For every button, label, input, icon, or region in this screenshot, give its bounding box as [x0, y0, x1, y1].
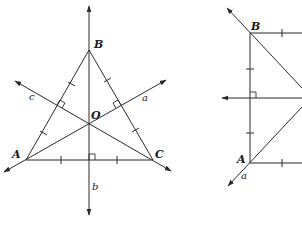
label-line-a: a: [241, 170, 247, 181]
label-b-vertex: B: [93, 38, 103, 51]
label-line-c: c: [29, 91, 35, 102]
label-line-a: a: [142, 92, 148, 103]
right-angle-mark: [250, 92, 256, 98]
right-angle-mark: [89, 154, 95, 160]
line-a: [228, 107, 302, 186]
line-through-b: [227, 8, 302, 88]
label-a-vertex: A: [11, 148, 21, 161]
label-line-b: b: [92, 181, 98, 192]
geometry-figure: B A C O c a b B A a: [0, 0, 302, 226]
right-diagram: B A a: [222, 8, 302, 186]
label-b-vertex: B: [250, 20, 260, 33]
label-a-vertex: A: [236, 153, 246, 166]
left-diagram: B A C O c a b: [4, 6, 171, 215]
label-o-center: O: [91, 109, 101, 122]
label-c-vertex: C: [155, 148, 164, 161]
tick-mark: [132, 128, 139, 132]
